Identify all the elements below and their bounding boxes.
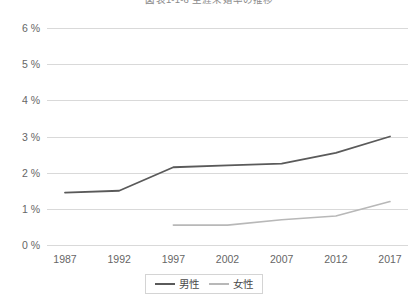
x-axis-tick-label: 2002 [198, 252, 258, 266]
y-axis-tick-label: 4 % [0, 94, 40, 107]
x-axis-tick-label: 1987 [35, 252, 95, 266]
chart-title: 図表1-1-6 生涯未婚率の推移 [0, 0, 419, 5]
x-axis-tick-label: 1992 [89, 252, 149, 266]
chart-legend[interactable]: 男性女性 [145, 274, 263, 294]
x-axis-tick-label: 2012 [306, 252, 366, 266]
y-axis-tick-label: 0 % [0, 239, 40, 252]
gridline-0 [47, 245, 408, 246]
y-axis-tick-label: 5 % [0, 58, 40, 71]
x-axis-tick-label: 2007 [252, 252, 312, 266]
legend-line-swatch-icon [155, 283, 175, 285]
legend-entry-男性[interactable]: 男性 [155, 278, 199, 290]
series-line-女性 [173, 202, 390, 226]
legend-line-swatch-icon [209, 283, 229, 285]
y-axis-tick-label: 3 % [0, 131, 40, 144]
y-axis-tick-label: 1 % [0, 203, 40, 216]
legend-entry-女性[interactable]: 女性 [209, 278, 253, 290]
chart-container: 図表1-1-6 生涯未婚率の推移 0 %1 %2 %3 %4 %5 %6 % 1… [0, 0, 419, 305]
x-axis-tick-label: 1997 [143, 252, 203, 266]
series-lines [47, 28, 408, 245]
x-axis-tick-label: 2017 [360, 252, 419, 266]
series-line-男性 [65, 137, 390, 193]
y-axis-tick-label: 2 % [0, 167, 40, 180]
y-axis-tick-label: 6 % [0, 22, 40, 35]
legend-label: 男性 [179, 278, 199, 290]
legend-label: 女性 [233, 278, 253, 290]
